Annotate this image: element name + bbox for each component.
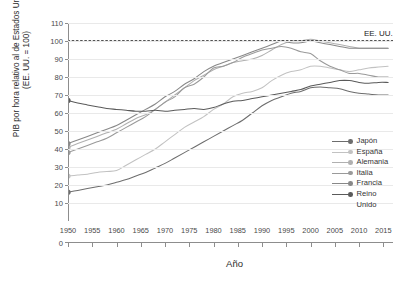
y-axis-tickmark (65, 113, 69, 114)
x-axis-tickmark (262, 243, 263, 247)
legend-line-swatch (332, 173, 349, 174)
x-axis-tickmark (165, 243, 166, 247)
gridline (68, 23, 393, 24)
legend-item-label: Francia (357, 178, 382, 189)
x-axis-tick-label: 1995 (278, 226, 294, 235)
x-axis-tick-label: 2015 (375, 226, 391, 235)
x-axis-tickmark (311, 243, 312, 247)
legend-item-label: Alemania (357, 157, 389, 168)
y-axis-tickmark (65, 185, 69, 186)
x-axis-tick-label: 1970 (157, 226, 173, 235)
x-axis-tick-label: 1990 (254, 226, 270, 235)
legend-item[interactable]: Japón (332, 136, 388, 147)
legend-dot-marker (348, 171, 353, 176)
legend-line-swatch (332, 162, 349, 163)
legend-item-label: España (357, 147, 383, 158)
x-axis-tickmark (335, 243, 336, 247)
x-axis-tick-label: 2005 (327, 226, 343, 235)
chart-container: PIB por hora relativo al de Estados Unid… (0, 0, 415, 281)
x-axis-tick-label: 1975 (181, 226, 197, 235)
x-axis-tick-label: 1980 (205, 226, 221, 235)
y-axis-tickmark (65, 95, 69, 96)
x-axis-tickmark (189, 243, 190, 247)
legend-dot-marker (348, 150, 353, 155)
y-axis-tickmark (65, 77, 69, 78)
legend-item[interactable]: Reino Unido (332, 189, 388, 210)
x-axis-tickmark (68, 243, 69, 247)
legend-item[interactable]: España (332, 147, 388, 158)
legend-item-label: Japón (357, 136, 378, 147)
legend-dot-marker (348, 181, 353, 186)
x-axis-tickmark (214, 243, 215, 247)
y-axis-zero-label: 0 (59, 239, 68, 248)
legend-line-swatch (332, 194, 349, 195)
legend-item[interactable]: Alemania (332, 157, 388, 168)
gridline (68, 41, 393, 42)
y-axis-tickmark (65, 23, 69, 24)
x-axis-tick-label: 1965 (133, 226, 149, 235)
x-axis-tick-label: 1960 (108, 226, 124, 235)
y-axis-tickmark (65, 149, 69, 150)
y-axis-tickmark (65, 41, 69, 42)
x-axis-title: Año (68, 258, 401, 269)
x-axis-tickmark (383, 243, 384, 247)
legend-item-label: Reino Unido (357, 189, 377, 210)
gridline (68, 131, 393, 132)
x-axis-tickmark (141, 243, 142, 247)
x-axis-tick-label: 2000 (302, 226, 318, 235)
legend-line-swatch (332, 183, 349, 184)
x-axis-tick-label: 1950 (60, 226, 76, 235)
legend-item-label: Italia (357, 168, 373, 179)
x-axis-tick-label: 1955 (84, 226, 100, 235)
legend-dot-marker (348, 192, 353, 197)
legend-item[interactable]: Francia (332, 178, 388, 189)
y-axis-tickmark (65, 203, 69, 204)
y-axis-tickmark (65, 131, 69, 132)
x-axis-tick-label: 2010 (351, 226, 367, 235)
y-axis-tickmark (65, 59, 69, 60)
chart-legend: JapónEspañaAlemaniaItaliaFranciaReino Un… (332, 136, 388, 210)
legend-line-swatch (332, 141, 349, 142)
legend-item[interactable]: Italia (332, 168, 388, 179)
x-axis-tick-label: 1985 (230, 226, 246, 235)
gridline (68, 113, 393, 114)
legend-line-swatch (332, 152, 349, 153)
x-axis-tickmark (92, 243, 93, 247)
legend-dot-marker (348, 139, 353, 144)
gridline (68, 77, 393, 78)
gridline (68, 95, 393, 96)
x-axis-tickmark (286, 243, 287, 247)
x-axis-tickmark (117, 243, 118, 247)
y-axis-line (68, 23, 69, 221)
usa-reference-label: EE. UU. (364, 29, 393, 38)
x-axis-tickmark (359, 243, 360, 247)
x-axis-tickmark (238, 243, 239, 247)
y-axis-tickmark (65, 167, 69, 168)
y-axis-title: PIB por hora relativo al de Estados Unid… (12, 0, 32, 158)
gridline (68, 59, 393, 60)
legend-dot-marker (348, 160, 353, 165)
